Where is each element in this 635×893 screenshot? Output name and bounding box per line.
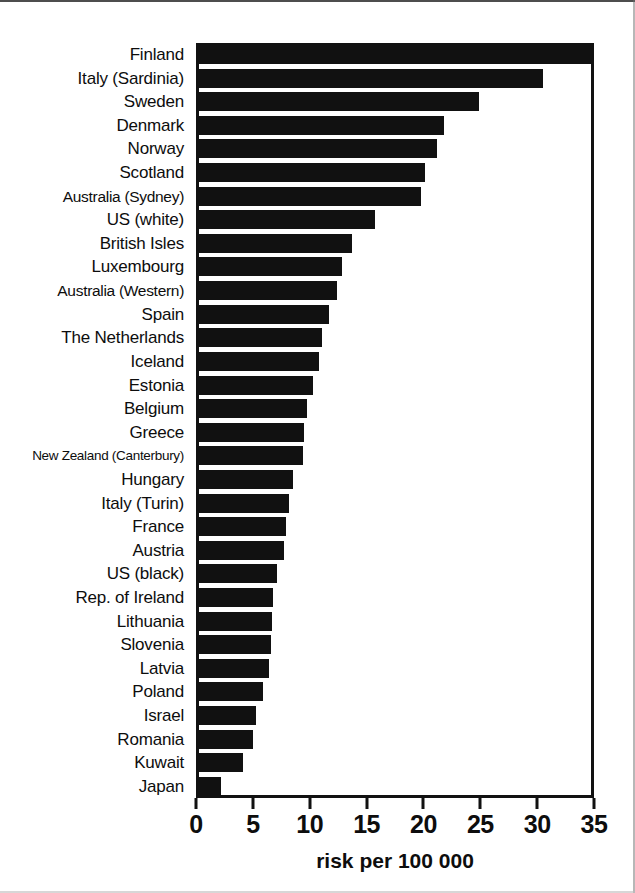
x-tick (365, 798, 368, 809)
bar-row (196, 635, 594, 654)
bar (196, 163, 425, 182)
category-label: Poland (0, 682, 190, 701)
bar (196, 494, 289, 513)
x-tick-label: 20 (410, 810, 437, 839)
category-label: Rep. of Ireland (0, 588, 190, 607)
bar (196, 753, 243, 772)
category-label: Iceland (0, 352, 190, 371)
bar-row (196, 187, 594, 206)
bar (196, 682, 263, 701)
bar (196, 777, 221, 796)
x-axis-tick-labels: 05101520253035 (196, 810, 594, 838)
category-label: US (white) (0, 210, 190, 229)
bar (196, 730, 253, 749)
bar (196, 376, 313, 395)
bar (196, 281, 337, 300)
bar-row (196, 612, 594, 631)
bar (196, 470, 293, 489)
bar-row (196, 376, 594, 395)
x-tick (308, 798, 311, 809)
bar (196, 423, 304, 442)
x-axis-ticks (196, 798, 594, 809)
category-label: Italy (Turin) (0, 494, 190, 513)
bar (196, 352, 319, 371)
category-label: Italy (Sardinia) (0, 69, 190, 88)
bar (196, 116, 444, 135)
category-label: Australia (Sydney) (0, 187, 190, 206)
bar (196, 257, 342, 276)
bar-row (196, 328, 594, 347)
x-tick-label: 25 (467, 810, 494, 839)
bar-row (196, 588, 594, 607)
bar (196, 328, 322, 347)
chart-figure: FinlandItaly (Sardinia)SwedenDenmarkNorw… (0, 0, 635, 893)
bar-row (196, 777, 594, 796)
bar-row (196, 45, 594, 64)
category-label: Luxembourg (0, 257, 190, 276)
x-tick (251, 798, 254, 809)
x-tick-label: 30 (524, 810, 551, 839)
category-label: Sweden (0, 92, 190, 111)
bar-row (196, 210, 594, 229)
x-tick-label: 10 (296, 810, 323, 839)
bar-row (196, 470, 594, 489)
category-label: British Isles (0, 234, 190, 253)
bar-row (196, 399, 594, 418)
category-label: The Netherlands (0, 328, 190, 347)
bar (196, 69, 543, 88)
category-label: US (black) (0, 564, 190, 583)
bar (196, 45, 593, 64)
bar (196, 187, 421, 206)
bar (196, 588, 273, 607)
bar (196, 564, 277, 583)
bar (196, 635, 271, 654)
bar-row (196, 69, 594, 88)
bar (196, 399, 307, 418)
category-label: France (0, 517, 190, 536)
bar-row (196, 541, 594, 560)
category-label: Belgium (0, 399, 190, 418)
category-label: New Zealand (Canterbury) (0, 446, 190, 465)
bar-row (196, 257, 594, 276)
bar (196, 92, 479, 111)
category-label: Scotland (0, 163, 190, 182)
category-label: Latvia (0, 659, 190, 678)
bar-row (196, 352, 594, 371)
bar (196, 234, 352, 253)
x-tick (422, 798, 425, 809)
bar-row (196, 730, 594, 749)
category-label: Slovenia (0, 635, 190, 654)
category-label: Kuwait (0, 753, 190, 772)
bar (196, 139, 437, 158)
bar-row (196, 446, 594, 465)
bar-row (196, 234, 594, 253)
bar-row (196, 305, 594, 324)
x-tick (536, 798, 539, 809)
category-label: Lithuania (0, 612, 190, 631)
category-label: Finland (0, 45, 190, 64)
category-label: Denmark (0, 116, 190, 135)
category-label: Israel (0, 706, 190, 725)
bar-row (196, 659, 594, 678)
category-label: Japan (0, 777, 190, 796)
x-tick (593, 798, 596, 809)
bar-row (196, 564, 594, 583)
x-axis-title: risk per 100 000 (196, 849, 594, 873)
bar (196, 446, 303, 465)
category-label: Australia (Western) (0, 281, 190, 300)
x-tick (195, 798, 198, 809)
bar (196, 517, 286, 536)
bar-row (196, 753, 594, 772)
category-label: Norway (0, 139, 190, 158)
category-label: Estonia (0, 376, 190, 395)
x-tick-label: 15 (353, 810, 380, 839)
scan-edge-top (0, 0, 635, 2)
bar-row (196, 682, 594, 701)
x-tick (479, 798, 482, 809)
bar (196, 541, 284, 560)
bar (196, 612, 272, 631)
bar (196, 706, 256, 725)
bar-row (196, 116, 594, 135)
x-tick-label: 5 (246, 810, 259, 839)
category-label: Hungary (0, 470, 190, 489)
